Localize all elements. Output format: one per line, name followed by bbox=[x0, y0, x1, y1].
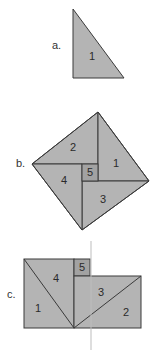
figure-a: a. 1 bbox=[52, 9, 124, 78]
piece-number: 2 bbox=[123, 306, 129, 318]
figure-b-label: b. bbox=[16, 157, 25, 169]
figure-c-label: c. bbox=[7, 288, 16, 300]
piece-number: 1 bbox=[113, 157, 119, 169]
piece-number: 4 bbox=[61, 174, 67, 186]
figure-c: c. 1 2 3 4 5 bbox=[7, 241, 141, 350]
piece-number: 4 bbox=[53, 272, 59, 284]
figure-a-label: a. bbox=[52, 39, 61, 51]
triangle-1 bbox=[73, 9, 124, 78]
figure-b: b. 1 2 3 4 5 bbox=[16, 112, 149, 230]
piece-number: 1 bbox=[89, 50, 95, 62]
piece-number: 3 bbox=[100, 193, 106, 205]
piece-number: 1 bbox=[35, 302, 41, 314]
piece-number: 5 bbox=[87, 166, 93, 178]
piece-number: 3 bbox=[98, 286, 104, 298]
piece-number: 2 bbox=[70, 141, 76, 153]
diagram-canvas: a. 1 b. 1 2 3 4 5 c. 1 bbox=[0, 0, 153, 354]
piece-number: 5 bbox=[79, 261, 85, 273]
